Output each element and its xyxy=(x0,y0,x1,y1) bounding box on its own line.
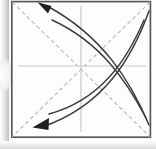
origami-diagram-figure xyxy=(0,0,156,149)
diagram-canvas xyxy=(0,0,156,149)
